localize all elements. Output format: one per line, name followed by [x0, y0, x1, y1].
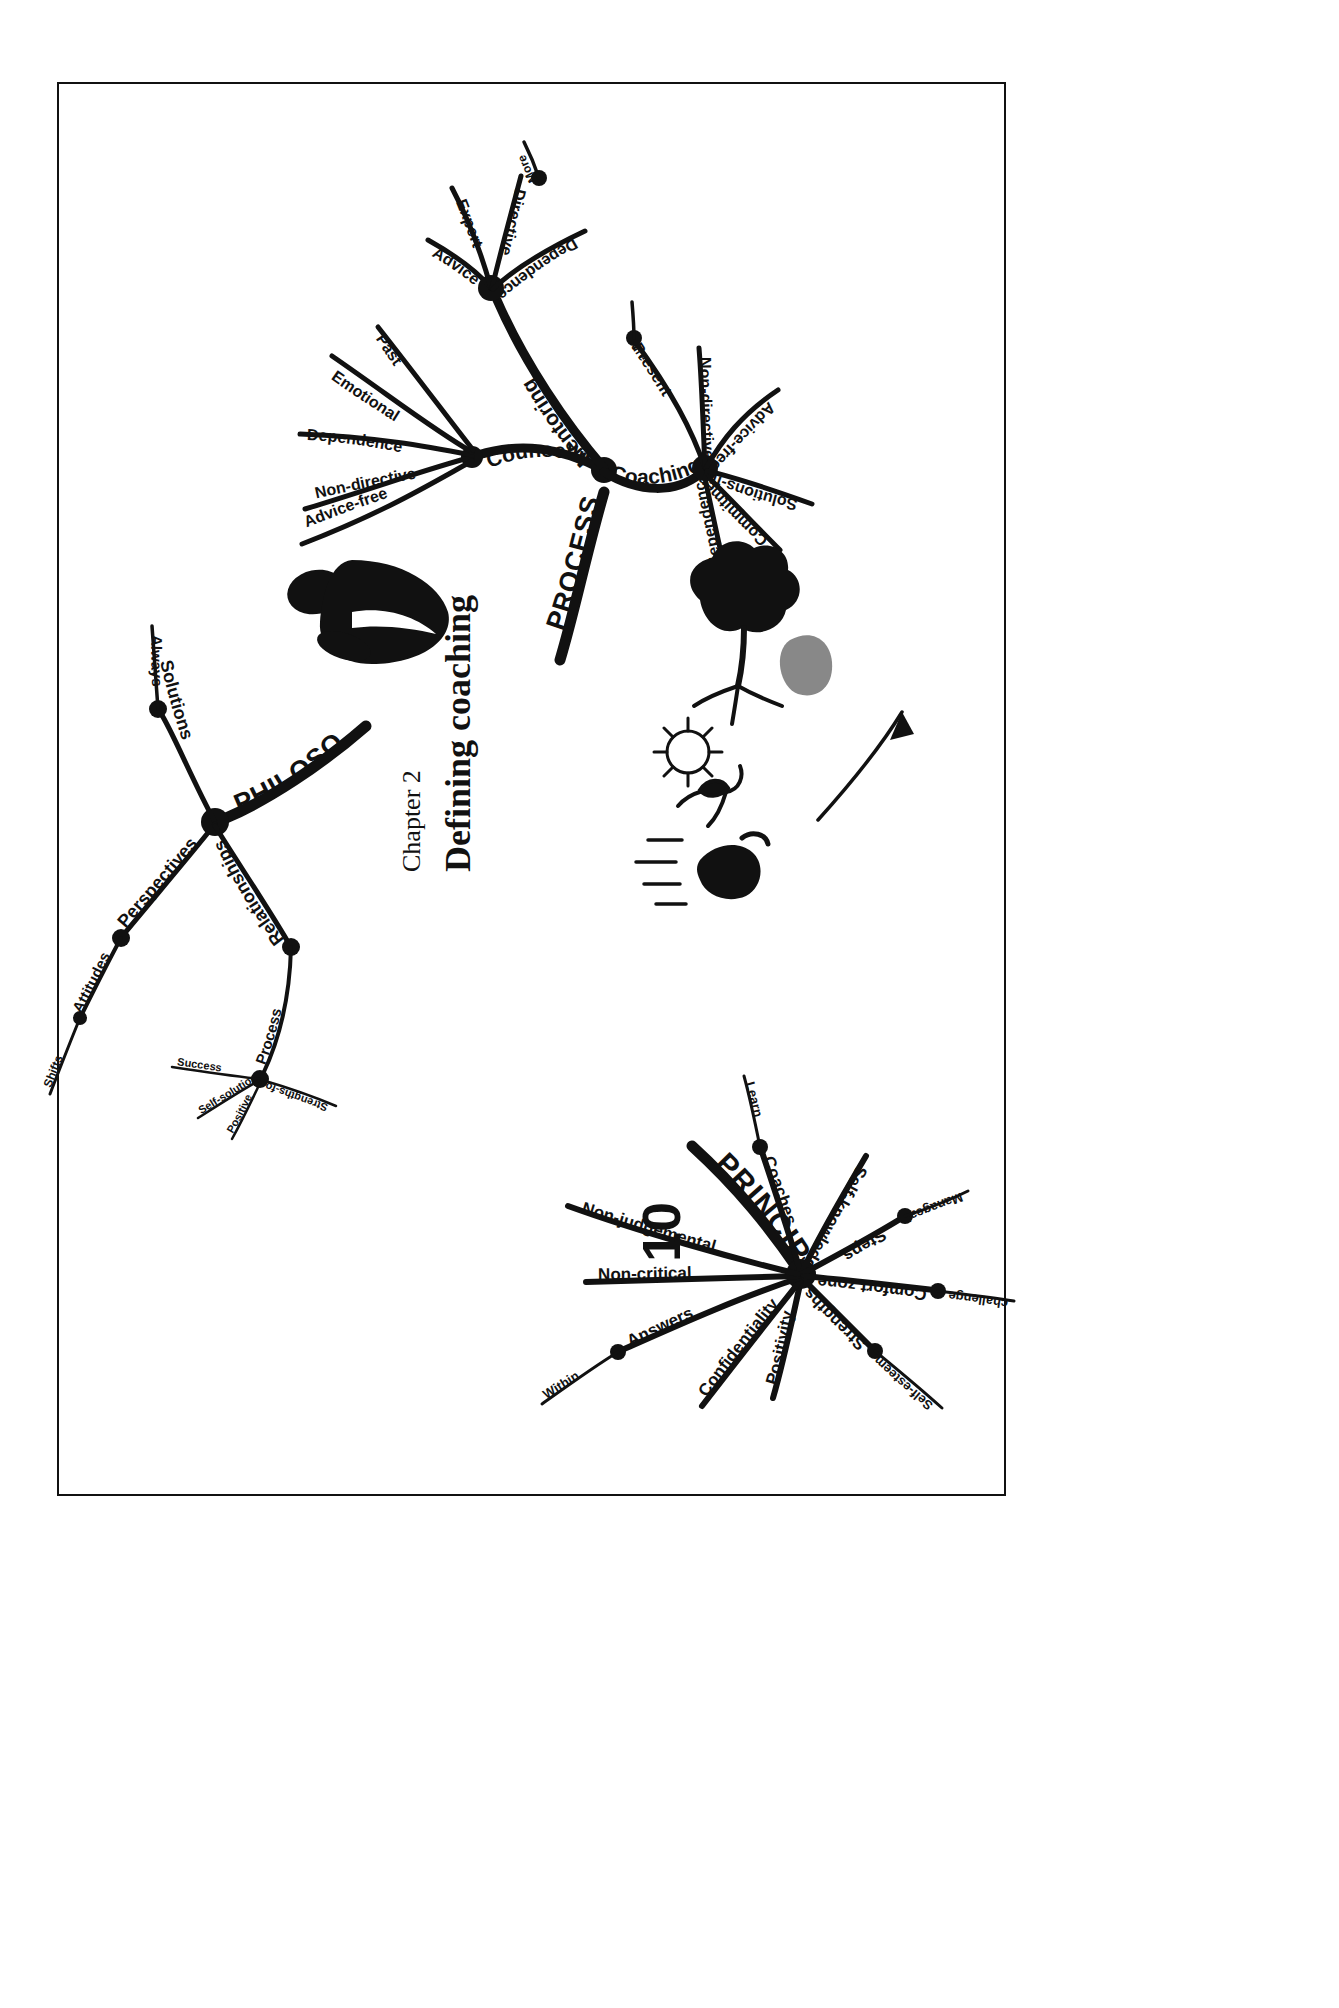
label-self-esteem: Self-esteem	[871, 1353, 936, 1413]
chapter-label: Chapter 2	[397, 770, 426, 872]
label-counselling-dependence: Dependence	[307, 426, 404, 455]
label-shifts: Shifts	[40, 1053, 66, 1090]
label-process: Process	[252, 1006, 285, 1066]
label-steps: Steps	[840, 1225, 890, 1266]
label-coaching-solutions-free: Solutions-free	[0, 0, 799, 513]
label-challenge: challenge	[948, 1288, 1009, 1311]
illustration-sun-icon	[654, 718, 722, 786]
page-root: PROCESSES Counselling Non-directive Depe…	[0, 0, 1339, 2008]
label-counselling-past: Past	[373, 331, 406, 369]
illustration-running-figure-icon	[636, 834, 768, 904]
label-coaching-advice-free: Advice-free	[707, 399, 779, 474]
page-title: Defining coaching	[438, 595, 478, 872]
label-within: Within	[540, 1368, 582, 1402]
label-processes: PROCESSES	[0, 0, 606, 634]
label-non-critical: Non-critical	[598, 1263, 692, 1284]
label-learn: Learn	[743, 1080, 766, 1118]
label-always: Always	[148, 635, 166, 687]
mindmap-canvas: PROCESSES Counselling Non-directive Depe…	[0, 0, 1339, 2008]
label-coaching-non-directive: Non-directive	[697, 357, 718, 460]
label-self-solution: Self-solution	[196, 1071, 259, 1116]
label-relationships: Relationships	[209, 837, 288, 949]
label-comfort-zone: Comfort zone	[817, 1272, 928, 1304]
label-mentoring-expert: Expert	[453, 197, 487, 251]
label-manageable: Manageable	[0, 0, 965, 1227]
label-mentoring-advice: Advice	[430, 244, 484, 288]
illustration-arrow-icon	[818, 712, 914, 820]
label-mentoring-directive: Directive	[497, 187, 529, 257]
illustration-person-silhouette	[283, 560, 449, 667]
label-answers: Answers	[624, 1303, 696, 1350]
label-coaching-future: Future	[0, 0, 651, 364]
label-perspectives: Perspectives	[113, 834, 201, 932]
label-self-knowledge: Self-knowledge	[794, 1162, 871, 1280]
label-attitudes: Attitudes	[69, 949, 113, 1015]
label-strengths-focus: Strengths-focus	[0, 0, 329, 1114]
